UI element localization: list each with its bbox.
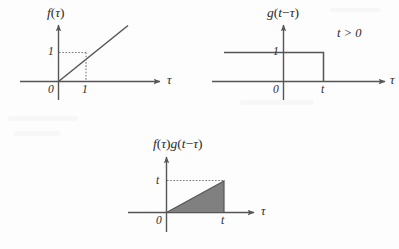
plot-product-origin-label: 0 (156, 215, 162, 227)
plot-product-ytick-t: t (156, 175, 159, 187)
plot-g-xaxis-label: τ (390, 74, 394, 87)
plot-f-tau-function-label: f(τ) (47, 6, 65, 20)
plot-product-function-label: f(τ)g(t−τ) (153, 137, 203, 151)
plot-g-condition-label: t > 0 (337, 27, 361, 40)
plot-product (128, 157, 254, 232)
plot-f-tau (20, 25, 160, 100)
plot-g-ytick-1: 1 (273, 46, 279, 58)
plot-f-tau-xaxis-label: τ (167, 74, 171, 87)
plot-g-function-label: g(t−τ) (267, 6, 299, 20)
plot-f-tau-ytick-1: 1 (48, 46, 54, 58)
function-name-g: g (267, 5, 274, 20)
plot-product-xaxis-label: τ (261, 205, 265, 218)
paren-close: ) (294, 5, 299, 20)
plot-g-xtick-t: t (321, 84, 324, 96)
shaded-triangle-region (167, 181, 225, 213)
paren-close: ) (60, 5, 65, 20)
minus-sign: − (282, 5, 290, 20)
ramp-curve (59, 26, 129, 82)
plot-f-tau-xtick-1: 1 (82, 84, 88, 96)
plot-g-origin-label: 0 (273, 84, 279, 96)
plot-product-xtick-t: t (221, 215, 224, 227)
paren-close-2: ) (198, 136, 203, 151)
plot-f-tau-origin-label: 0 (48, 84, 54, 96)
